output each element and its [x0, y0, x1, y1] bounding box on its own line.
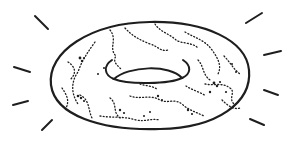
ray-line	[264, 90, 278, 95]
radiating-lines	[13, 13, 281, 130]
donut-hole-top	[106, 60, 114, 79]
ray-line	[42, 120, 52, 130]
donut-icon	[51, 22, 249, 129]
donut-illustration	[0, 0, 292, 142]
donut-hole-top	[182, 60, 189, 78]
donut-outer-outline	[51, 22, 249, 129]
sprinkle-texture	[62, 24, 240, 121]
donut-hole-bottom	[114, 68, 182, 83]
ray-line	[13, 101, 28, 105]
ray-line	[35, 16, 48, 29]
ray-line	[246, 13, 262, 23]
ray-line	[264, 51, 281, 55]
ray-line	[14, 67, 30, 72]
ray-line	[250, 119, 264, 125]
